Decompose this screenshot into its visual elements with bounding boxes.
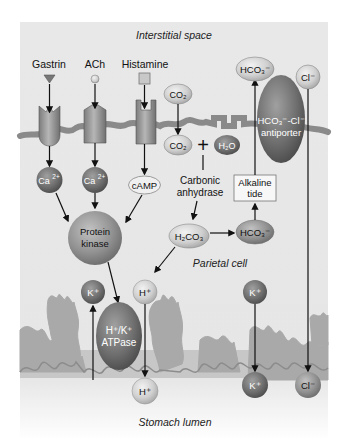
carbonic-anhydrase-label-1: Carbonic	[180, 175, 220, 186]
co2-interstitial: CO₂	[164, 84, 192, 104]
svg-text:Ca: Ca	[38, 176, 50, 186]
h-k-atpase: H⁺/K⁺ ATPase	[96, 302, 142, 370]
svg-text:K⁺: K⁺	[249, 380, 260, 391]
k-ion-intracellular-right: K⁺	[243, 280, 267, 304]
histamine-square-icon	[139, 73, 150, 84]
ach-circle-icon	[91, 75, 99, 83]
svg-text:Cl⁻: Cl⁻	[301, 72, 315, 83]
h2co3-molecule: H₂CO₃	[169, 224, 209, 248]
camp-node: cAMP	[129, 176, 161, 194]
alkaline-tide-box: Alkaline tide	[234, 175, 276, 201]
svg-text:Cl⁻: Cl⁻	[301, 380, 315, 391]
h2o-molecule: H₂O	[214, 135, 240, 155]
svg-text:antiporter: antiporter	[261, 127, 301, 138]
svg-text:HCO₃⁻-Cl⁻: HCO₃⁻-Cl⁻	[257, 115, 304, 126]
svg-text:CO₂: CO₂	[170, 141, 188, 151]
region-label-parietal: Parietal cell	[193, 257, 248, 269]
svg-text:K⁺: K⁺	[87, 287, 98, 298]
label-histamine: Histamine	[122, 58, 169, 70]
plus-sign: +	[197, 134, 209, 156]
label-gastrin: Gastrin	[32, 58, 66, 70]
cl-lumen: Cl⁻	[295, 372, 321, 398]
svg-text:H⁺/K⁺: H⁺/K⁺	[106, 325, 133, 336]
parietal-cell-diagram: Interstitial space Parietal cell Stomach…	[0, 0, 348, 447]
svg-text:tide: tide	[247, 188, 262, 199]
hco3-cl-antiporter: HCO₃⁻-Cl⁻ antiporter	[257, 75, 305, 163]
cl-interstitial: Cl⁻	[296, 65, 320, 89]
svg-text:ATPase: ATPase	[102, 337, 137, 348]
svg-text:2+: 2+	[52, 173, 60, 180]
svg-text:H⁺: H⁺	[139, 287, 151, 298]
region-label-lumen: Stomach lumen	[139, 416, 212, 428]
ach-receptor-icon	[84, 105, 106, 143]
svg-text:kinase: kinase	[81, 238, 108, 249]
ca-ion-gastrin: Ca 2+	[37, 167, 63, 193]
svg-text:Alkaline: Alkaline	[238, 177, 271, 188]
co2-intracellular: CO₂	[164, 135, 192, 155]
svg-text:2+: 2+	[98, 173, 106, 180]
svg-text:HCO₃⁻: HCO₃⁻	[240, 64, 270, 75]
hco3-interstitial: HCO₃⁻	[236, 57, 274, 81]
label-ach: ACh	[85, 58, 106, 70]
svg-text:H⁺: H⁺	[139, 386, 151, 397]
h-ion-lumen: H⁺	[132, 378, 158, 404]
k-ion-intracellular-left: K⁺	[81, 280, 105, 304]
svg-text:H₂O: H₂O	[219, 141, 236, 151]
svg-text:K⁺: K⁺	[249, 287, 260, 298]
ca-ion-ach: Ca 2+	[82, 167, 108, 193]
region-label-interstitial: Interstitial space	[136, 29, 212, 41]
k-ion-lumen: K⁺	[242, 372, 268, 398]
carbonic-anhydrase-label-2: anhydrase	[177, 187, 224, 198]
h-ion-intracellular: H⁺	[133, 280, 157, 304]
svg-text:HCO₃⁻: HCO₃⁻	[240, 227, 270, 238]
protein-kinase-node: Protein kinase	[68, 211, 122, 265]
svg-text:H₂CO₃: H₂CO₃	[175, 231, 204, 242]
hco3-intracellular: HCO₃⁻	[236, 220, 274, 244]
svg-text:CO₂: CO₂	[170, 90, 188, 100]
svg-text:Protein: Protein	[80, 226, 110, 237]
svg-text:cAMP: cAMP	[132, 180, 157, 191]
svg-text:Ca: Ca	[84, 176, 96, 186]
